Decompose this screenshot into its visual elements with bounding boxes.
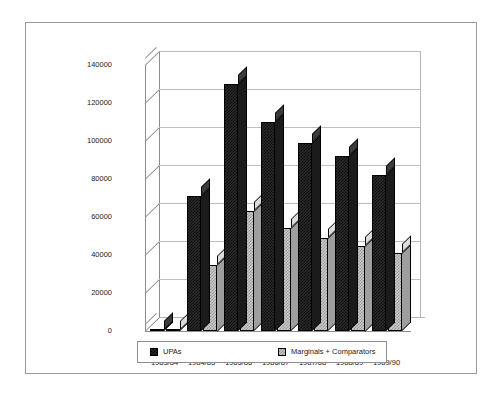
- bar-front-face: [298, 143, 312, 331]
- bar-upas: [335, 156, 349, 331]
- bar-front-face: [372, 175, 386, 331]
- y-axis-labels: 140000120000100000800006000040000200000: [26, 23, 112, 319]
- bar-upas: [187, 196, 201, 331]
- bar-marginals: [166, 330, 180, 331]
- legend-swatch-marginals: [278, 348, 286, 356]
- bar-group: [261, 61, 298, 337]
- bar-top-face: [164, 312, 173, 330]
- legend-swatch-upas: [150, 348, 158, 356]
- y-axis-tick-label: 140000: [87, 61, 112, 69]
- bar-upas: [150, 330, 164, 331]
- bar-side-face: [402, 244, 411, 331]
- chart-frame: 140000120000100000800006000040000200000 …: [25, 22, 477, 374]
- bar-side-face: [201, 187, 210, 331]
- bar-group: [187, 61, 224, 337]
- plot-area: [121, 41, 401, 337]
- y-axis-tick-label: 80000: [91, 175, 112, 183]
- legend-entry: Marginals + Comparators: [278, 347, 375, 356]
- y-axis-tick-label: 60000: [91, 213, 112, 221]
- y-axis-tick-label: 100000: [87, 137, 112, 145]
- y-axis-tick-label: 20000: [91, 289, 112, 297]
- legend-label: Marginals + Comparators: [291, 347, 375, 356]
- bar-columns: [121, 41, 401, 337]
- legend-entry: UPAs: [150, 347, 182, 356]
- bar-side-face: [275, 113, 284, 331]
- bar-upas: [298, 143, 312, 331]
- y-axis-tick-label: 40000: [91, 251, 112, 259]
- bar-group: [150, 61, 187, 337]
- chart-legend: UPAsMarginals + Comparators: [137, 341, 387, 363]
- y-axis-tick-label: 120000: [87, 99, 112, 107]
- legend-label: UPAs: [163, 347, 182, 356]
- bar-upas: [372, 175, 386, 331]
- bar-front-face: [166, 329, 180, 331]
- bar-side-face: [386, 167, 395, 331]
- bar-group: [298, 61, 335, 337]
- y-axis-tick-label: 0: [108, 327, 112, 335]
- bar-side-face: [312, 134, 321, 331]
- bar-front-face: [261, 122, 275, 331]
- bar-upas: [261, 122, 275, 331]
- bar-front-face: [224, 84, 238, 331]
- back-wall-right-edge: [420, 51, 421, 317]
- bar-front-face: [335, 156, 349, 331]
- bar-group: [335, 61, 372, 337]
- bar-upas: [224, 84, 238, 331]
- bar-front-face: [187, 196, 201, 331]
- bar-front-face: [150, 329, 164, 331]
- bar-side-face: [349, 148, 358, 331]
- bar-side-face: [238, 75, 247, 331]
- bar-group: [224, 61, 261, 337]
- bar-group: [372, 61, 409, 337]
